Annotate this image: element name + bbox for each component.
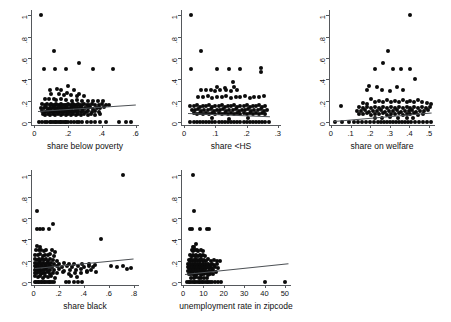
data-point [80, 280, 84, 284]
x-axis-label: share below poverty [47, 141, 123, 151]
data-point [395, 85, 399, 89]
x-tick-label: 0 [32, 130, 36, 138]
data-point [365, 88, 369, 92]
panel-poverty: 0.2.4.6.810.2.4.6share below poverty [31, 10, 139, 125]
data-point [190, 227, 194, 231]
data-point [66, 84, 70, 88]
data-point [224, 88, 228, 92]
data-point [67, 280, 71, 284]
y-axis-line [329, 10, 330, 125]
x-axis-line [31, 285, 139, 286]
data-point [52, 280, 56, 284]
data-point [227, 67, 231, 71]
y-axis-line [181, 10, 182, 125]
data-point [420, 100, 424, 104]
x-tick-label: .1 [347, 130, 353, 138]
data-point [386, 49, 390, 53]
data-point [243, 94, 247, 98]
data-point [91, 67, 95, 71]
data-point [388, 89, 392, 93]
data-point [263, 280, 267, 284]
x-axis-label: unemployment rate in zipcode [179, 301, 292, 311]
data-point [220, 95, 224, 99]
x-axis-line [181, 125, 281, 126]
data-point [115, 265, 119, 269]
scatter-matrix-figure: 0.2.4.6.810.2.4.6share below poverty0.2.… [0, 0, 451, 322]
data-point [219, 280, 223, 284]
x-tick-label: .5 [426, 130, 432, 138]
x-tick [34, 125, 35, 128]
data-point [211, 272, 215, 276]
x-tick-label: .6 [132, 130, 138, 138]
x-tick [34, 285, 35, 288]
data-point [224, 94, 228, 98]
data-point [189, 13, 193, 17]
data-point [391, 67, 395, 71]
data-point [215, 95, 219, 99]
data-point [99, 237, 103, 241]
x-tick-label: .3 [387, 130, 393, 138]
panel-black: 0.2.4.6.810.2.4.6.8share black [31, 170, 139, 285]
data-point [401, 88, 405, 92]
data-point [199, 49, 203, 53]
data-point [192, 209, 196, 213]
data-point [213, 89, 217, 93]
data-point [89, 268, 93, 272]
data-point [47, 227, 51, 231]
data-point [76, 280, 80, 284]
data-point [206, 94, 210, 98]
data-point [117, 120, 121, 124]
data-point [375, 85, 379, 89]
data-point [75, 275, 79, 279]
data-point [408, 13, 412, 17]
x-tick-label: 0 [181, 290, 185, 298]
data-point [257, 95, 261, 99]
data-point [94, 270, 98, 274]
data-point [218, 88, 222, 92]
x-tick-label: 0 [329, 130, 333, 138]
data-point [93, 113, 97, 117]
data-point [111, 67, 115, 71]
data-point [373, 67, 377, 71]
data-point [49, 274, 53, 278]
data-point [77, 61, 81, 65]
x-tick [331, 125, 332, 128]
data-point [429, 120, 433, 124]
data-point [129, 120, 133, 124]
x-tick [59, 285, 60, 288]
data-point [235, 88, 239, 92]
x-tick [409, 125, 410, 128]
x-axis-line [181, 285, 291, 286]
x-tick-label: 10 [199, 290, 207, 298]
data-point [204, 88, 208, 92]
x-tick-label: 40 [260, 290, 268, 298]
data-point [39, 13, 43, 17]
data-point [41, 227, 45, 231]
x-tick [247, 125, 248, 128]
x-tick-label: 20 [220, 290, 228, 298]
data-point [231, 80, 235, 84]
data-point [426, 108, 430, 112]
x-tick-label: .2 [55, 290, 61, 298]
data-point [198, 227, 202, 231]
data-point [209, 88, 213, 92]
data-point [196, 95, 200, 99]
data-point [79, 271, 83, 275]
x-tick [134, 285, 135, 288]
data-point [62, 93, 66, 97]
x-tick [102, 125, 103, 128]
data-point [339, 104, 343, 108]
data-point [98, 112, 102, 116]
x-axis-label: share <HS [211, 141, 251, 151]
data-point [35, 209, 39, 213]
panel-welfare: 0.2.4.6.810.1.2.3.4.5share on welfare [329, 10, 435, 125]
data-point [238, 67, 242, 71]
data-point [51, 222, 55, 226]
x-tick [244, 285, 245, 288]
y-axis-line [31, 170, 32, 285]
panel-unemployment: 0.2.4.6.8101020304050unemployment rate i… [181, 170, 291, 285]
data-point [129, 266, 133, 270]
data-point [210, 96, 214, 100]
x-tick [184, 125, 185, 128]
x-tick-label: 30 [240, 290, 248, 298]
